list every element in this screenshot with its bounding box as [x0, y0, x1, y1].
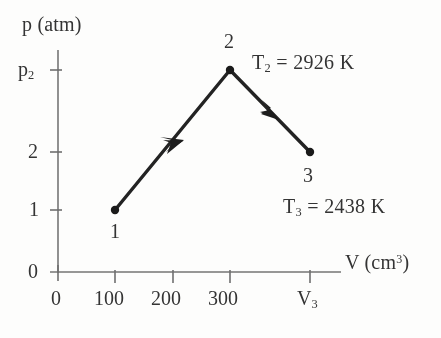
state-point-3-label: 3 — [303, 165, 313, 185]
x-axis-title-close: ) — [402, 251, 409, 273]
y-tick-label-2: 2 — [28, 141, 38, 161]
x-tick-label-v3-base: V — [297, 287, 311, 309]
t2-subscript: 2 — [265, 61, 272, 75]
t3-subscript: 3 — [296, 205, 303, 219]
y-tick-label-p2-sub: 2 — [28, 68, 34, 82]
state-3-temperature-annotation: T3 = 2438 K — [283, 196, 385, 216]
y-tick-label-p2: p2 — [18, 59, 34, 79]
x-axis-title: V (cm3) — [345, 252, 409, 272]
y-axis-title: p (atm) — [22, 14, 82, 34]
y-tick-label-0: 0 — [28, 261, 38, 281]
state-2-temperature-annotation: T2 = 2926 K — [252, 52, 354, 72]
t2-value: = 2926 K — [271, 51, 354, 73]
y-tick-label-1: 1 — [29, 199, 39, 219]
state-point-2-marker — [226, 66, 234, 74]
state-point-2-label: 2 — [224, 31, 234, 51]
state-point-1-marker — [111, 206, 119, 214]
t3-value: = 2438 K — [302, 195, 385, 217]
t2-symbol: T — [252, 51, 265, 73]
pv-diagram-figure: p (atm) V (cm3) p2 2 1 0 0 100 200 300 V… — [0, 0, 441, 338]
x-tick-label-100: 100 — [94, 288, 124, 308]
y-tick-label-p2-base: p — [18, 58, 28, 80]
x-tick-label-200: 200 — [151, 288, 181, 308]
x-tick-label-v3: V3 — [297, 288, 318, 308]
t3-symbol: T — [283, 195, 296, 217]
state-point-3-marker — [306, 148, 314, 156]
x-axis-title-exponent: 3 — [396, 252, 402, 266]
x-tick-label-0: 0 — [51, 288, 61, 308]
x-tick-label-v3-sub: 3 — [311, 297, 317, 311]
x-tick-label-300: 300 — [208, 288, 238, 308]
x-axis-title-main: V (cm — [345, 251, 396, 273]
state-point-1-label: 1 — [110, 221, 120, 241]
